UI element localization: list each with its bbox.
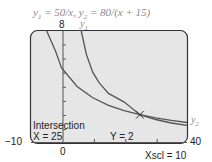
x-max-label: 40 bbox=[190, 136, 201, 147]
intersection-title: Intersection bbox=[33, 121, 85, 131]
x-min-label: −10 bbox=[5, 136, 22, 147]
xscl-label: Xscl = 10 bbox=[145, 150, 186, 161]
y-readout: Y = 2 bbox=[110, 132, 133, 142]
graph-screen bbox=[0, 0, 212, 162]
x-readout: X = 25 bbox=[33, 132, 62, 142]
x-zero-label: 0 bbox=[60, 146, 66, 157]
y2-curve-label: y2 bbox=[191, 114, 199, 128]
y1-curve-label: y1 bbox=[80, 18, 88, 32]
y-max-label: 8 bbox=[59, 19, 65, 30]
